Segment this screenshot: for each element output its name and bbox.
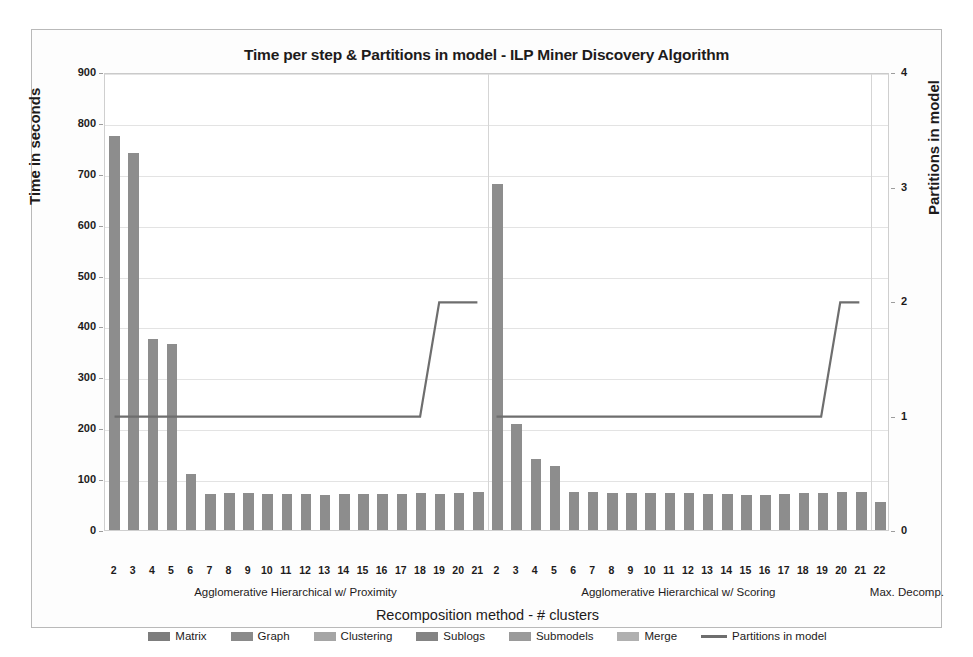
- legend-color-swatch: [617, 632, 639, 641]
- legend-color-swatch: [509, 632, 531, 641]
- legend-item: Clustering: [314, 630, 393, 642]
- y-axis-right-tick: 1: [901, 410, 945, 422]
- y-axis-left-tick: 300: [52, 371, 96, 383]
- legend-label: Submodels: [536, 630, 594, 642]
- y-axis-left-tickmark: [99, 327, 103, 328]
- y-axis-left-tickmark: [99, 277, 103, 278]
- y-axis-left-tick: 600: [52, 219, 96, 231]
- y-axis-right-tick: 2: [901, 295, 945, 307]
- legend-label: Matrix: [175, 630, 206, 642]
- y-axis-right-tick: 3: [901, 181, 945, 193]
- partitions-line: [115, 302, 478, 416]
- legend-color-swatch: [231, 632, 253, 641]
- legend-label: Partitions in model: [732, 630, 827, 642]
- legend-line-swatch: [701, 635, 727, 638]
- y-axis-left-tick: 800: [52, 117, 96, 129]
- x-axis-group-label: Agglomerative Hierarchical w/ Proximity: [104, 586, 487, 598]
- y-axis-left-tickmark: [99, 124, 103, 125]
- x-axis-label: Recomposition method - # clusters: [32, 607, 943, 623]
- y-axis-left-tickmark: [99, 73, 103, 74]
- y-axis-left-tick: 500: [52, 270, 96, 282]
- legend-color-swatch: [148, 632, 170, 641]
- y-axis-right-tickmark: [891, 417, 895, 418]
- y-axis-right-tickmark: [891, 302, 895, 303]
- y-axis-left-tickmark: [99, 429, 103, 430]
- y-axis-left-tickmark: [99, 175, 103, 176]
- y-axis-left-label: Time in seconds: [26, 88, 43, 205]
- legend-label: Merge: [644, 630, 677, 642]
- legend-item: Merge: [617, 630, 677, 642]
- chart-legend: MatrixGraphClusteringSublogsSubmodelsMer…: [32, 630, 943, 642]
- legend-item: Submodels: [509, 630, 594, 642]
- x-axis-tick: 22: [864, 564, 894, 576]
- y-axis-left-tickmark: [99, 226, 103, 227]
- y-axis-right-tick: 0: [901, 524, 945, 536]
- y-axis-left-tick: 400: [52, 320, 96, 332]
- y-axis-left-tick: 900: [52, 66, 96, 78]
- x-axis-group-label: Max. Decomp.: [870, 586, 889, 598]
- chart-frame: Time per step & Partitions in model - IL…: [31, 29, 942, 628]
- legend-item: Sublogs: [416, 630, 485, 642]
- legend-label: Graph: [258, 630, 290, 642]
- y-axis-left-tickmark: [99, 480, 103, 481]
- y-axis-right-tickmark: [891, 531, 895, 532]
- legend-label: Clustering: [341, 630, 393, 642]
- legend-label: Sublogs: [443, 630, 485, 642]
- y-axis-left-tick: 700: [52, 168, 96, 180]
- legend-item: Graph: [231, 630, 290, 642]
- partitions-line: [496, 302, 859, 416]
- x-axis-group-label: Agglomerative Hierarchical w/ Scoring: [487, 586, 870, 598]
- legend-color-swatch: [314, 632, 336, 641]
- y-axis-left-tick: 0: [52, 524, 96, 536]
- legend-item: Partitions in model: [701, 630, 827, 642]
- chart-title: Time per step & Partitions in model - IL…: [32, 46, 941, 64]
- y-axis-right-tickmark: [891, 73, 895, 74]
- y-axis-left-tick: 200: [52, 422, 96, 434]
- y-axis-left-tick: 100: [52, 473, 96, 485]
- y-axis-left-tickmark: [99, 531, 103, 532]
- plot-area: [104, 73, 889, 531]
- partitions-line-series: [105, 74, 888, 531]
- y-axis-right-tickmark: [891, 188, 895, 189]
- y-axis-right-label: Partitions in model: [925, 80, 942, 215]
- y-axis-left-tickmark: [99, 378, 103, 379]
- y-axis-right-tick: 4: [901, 66, 945, 78]
- legend-color-swatch: [416, 632, 438, 641]
- legend-item: Matrix: [148, 630, 206, 642]
